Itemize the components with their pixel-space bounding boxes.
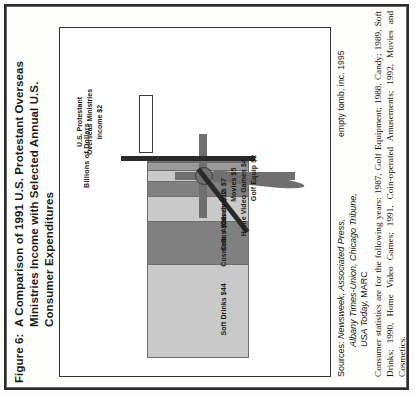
rotated-content-wrapper: Figure 6:A Comparison of 1991 U.S. Prote… (6, 5, 410, 391)
ministries-income-bar (139, 95, 153, 153)
sources-label: Sources: (336, 341, 346, 377)
sources-line-1: Newsweek, Associated Press, (336, 219, 346, 339)
sources-block: Sources: Newsweek, Associated Press, Alb… (336, 141, 371, 377)
sources-line-3-roman: MARC (359, 271, 369, 300)
footnote-text: Consumer statistics are for the followin… (372, 11, 409, 377)
bar-label: Golf Equip $2 (250, 155, 257, 358)
ministries-annotation-line2: Overseas Ministries (86, 89, 93, 155)
ministries-annotation: U.S. Protestant Overseas Ministries Inco… (75, 74, 105, 170)
ministries-annotation-line1: U.S. Protestant (76, 97, 83, 147)
ministries-annotation-line3: Income $2 (96, 105, 103, 139)
scanned-page: Figure 6:A Comparison of 1991 U.S. Prote… (0, 0, 415, 396)
sources-line-2: Albany Times-Union, Chicago Tribune, (347, 141, 359, 377)
figure-document: Figure 6:A Comparison of 1991 U.S. Prote… (6, 5, 410, 391)
figure-title: A Comparison of 1991 U.S. Protestant Ove… (12, 21, 58, 327)
figure-number: Figure 6: (12, 327, 27, 383)
bar-label: Movies $5 (230, 167, 237, 358)
bar-label: Home Video Games $4 (240, 159, 247, 358)
bar-label-group: Soft Drinks $44Cosmetics $20Candy $12Coi… (220, 38, 320, 358)
figure-caption: Figure 6:A Comparison of 1991 U.S. Prote… (12, 11, 58, 383)
copyright-line: empty tomb, inc. 1995 (336, 50, 346, 137)
chart-frame: Billions of Dollars U.S. Protestant Over… (59, 27, 331, 377)
sources-line-3-italic: USA Today, (359, 300, 369, 347)
bar-label: Coin Amusements $7 (220, 178, 227, 358)
